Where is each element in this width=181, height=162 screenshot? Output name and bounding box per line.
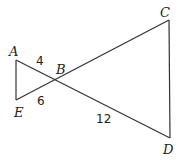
geometry-diagram: A B C D E 4 6 12: [0, 0, 181, 162]
length-ab: 4: [36, 55, 44, 67]
point-label-c: C: [160, 6, 170, 19]
diagram-lines: [0, 0, 181, 162]
length-bd: 12: [96, 113, 111, 125]
point-label-e: E: [14, 106, 24, 119]
point-label-b: B: [56, 63, 66, 76]
segment-CD: [169, 20, 170, 138]
length-eb: 6: [37, 95, 45, 107]
point-label-a: A: [9, 45, 18, 58]
point-label-d: D: [163, 143, 173, 156]
